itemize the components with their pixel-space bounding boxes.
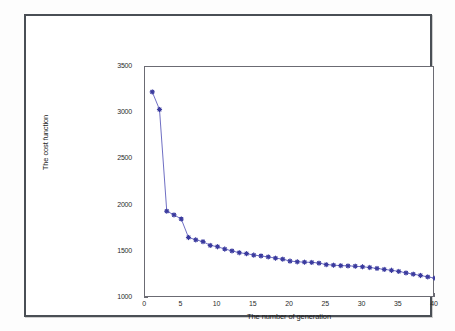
data-point-marker <box>194 238 198 242</box>
x-tick-label-10: 10 <box>202 300 232 307</box>
x-tick-label-35: 35 <box>383 300 413 307</box>
y-tick-label-1500: 1500 <box>92 247 132 254</box>
y-tick-label-3500: 3500 <box>92 62 132 69</box>
figure-canvas: 100015002000250030003500 051015202530354… <box>28 18 428 313</box>
data-point-marker <box>397 269 401 273</box>
data-point-marker <box>418 273 422 277</box>
data-point-marker <box>339 264 343 268</box>
data-point-marker <box>281 257 285 261</box>
data-point-marker <box>331 263 335 267</box>
data-point-marker <box>230 249 234 253</box>
data-point-marker <box>150 90 154 94</box>
cost-line <box>152 92 435 278</box>
data-point-marker <box>266 255 270 259</box>
data-point-marker <box>259 254 263 258</box>
data-point-marker <box>186 235 190 239</box>
scanned-page: 100015002000250030003500 051015202530354… <box>0 0 455 331</box>
y-tick-label-2000: 2000 <box>92 201 132 208</box>
data-point-marker <box>375 266 379 270</box>
data-point-marker <box>273 256 277 260</box>
data-point-marker <box>157 107 161 111</box>
x-tick-label-15: 15 <box>238 300 268 307</box>
data-point-marker <box>215 245 219 249</box>
x-tick-label-5: 5 <box>165 300 195 307</box>
cost-function-line-chart <box>145 67 435 298</box>
data-point-marker <box>404 271 408 275</box>
data-point-marker <box>346 264 350 268</box>
data-point-marker <box>324 262 328 266</box>
y-tick-label-2500: 2500 <box>92 154 132 161</box>
data-point-marker <box>295 260 299 264</box>
cost-series <box>150 90 435 280</box>
data-point-marker <box>317 261 321 265</box>
plot-area <box>144 66 434 297</box>
data-point-marker <box>179 217 183 221</box>
figure-frame: 100015002000250030003500 051015202530354… <box>24 14 432 317</box>
y-tick-label-1000: 1000 <box>92 293 132 300</box>
data-point-marker <box>288 259 292 263</box>
x-tick-label-20: 20 <box>274 300 304 307</box>
x-axis-label: The number of generation <box>144 312 434 321</box>
x-tick-label-0: 0 <box>129 300 159 307</box>
data-point-marker <box>426 275 430 279</box>
data-point-marker <box>172 213 176 217</box>
data-point-marker <box>208 243 212 247</box>
data-point-marker <box>237 251 241 255</box>
data-point-marker <box>433 276 435 280</box>
data-point-marker <box>382 267 386 271</box>
data-point-marker <box>360 265 364 269</box>
data-point-marker <box>302 260 306 264</box>
x-tick-label-40: 40 <box>419 300 449 307</box>
y-tick-label-3000: 3000 <box>92 108 132 115</box>
y-axis-label: The cost function <box>41 93 50 193</box>
data-point-marker <box>368 265 372 269</box>
data-point-marker <box>244 252 248 256</box>
data-point-marker <box>201 240 205 244</box>
x-tick-label-30: 30 <box>347 300 377 307</box>
data-point-marker <box>310 260 314 264</box>
data-point-marker <box>353 264 357 268</box>
data-point-marker <box>411 272 415 276</box>
data-point-marker <box>389 268 393 272</box>
data-point-marker <box>252 253 256 257</box>
data-point-marker <box>223 247 227 251</box>
data-point-marker <box>165 209 169 213</box>
x-tick-label-25: 25 <box>310 300 340 307</box>
